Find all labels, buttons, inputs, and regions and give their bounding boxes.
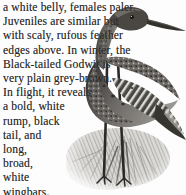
caption-line: very plain grey-brown. bbox=[3, 72, 183, 86]
caption-line: wingbars. bbox=[3, 186, 183, 195]
caption-line: Juveniles are similar but bbox=[3, 15, 183, 29]
field-guide-page: a white belly, females paler. Juveniles … bbox=[0, 0, 186, 195]
caption-line: a white belly, females paler. bbox=[3, 1, 183, 15]
caption-line: Black-tailed Godwit is bbox=[3, 58, 183, 72]
caption-line: In flight, it reveals bbox=[3, 86, 183, 100]
caption-line: rump, black bbox=[3, 115, 183, 129]
caption-text: a white belly, females paler. Juveniles … bbox=[3, 1, 183, 195]
caption-line: broad, bbox=[3, 157, 183, 171]
caption-line: a bold, white bbox=[3, 100, 183, 114]
caption-line: tail, and bbox=[3, 129, 183, 143]
caption-line: edges above. In winter, the bbox=[3, 44, 183, 58]
caption-line: long, bbox=[3, 143, 183, 157]
caption-line: white bbox=[3, 171, 183, 185]
caption-line: with scaly, rufous feather bbox=[3, 29, 183, 43]
